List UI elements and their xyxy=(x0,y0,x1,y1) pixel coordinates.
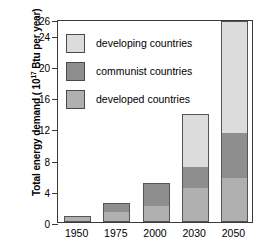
y-axis-tick-label: 16 xyxy=(39,94,50,105)
y-axis-tick xyxy=(52,68,58,69)
y-axis-tick xyxy=(52,21,58,22)
legend-label: developing countries xyxy=(96,37,192,49)
y-axis-tick xyxy=(52,162,58,163)
y-axis-tick-label: 4 xyxy=(44,187,50,198)
y-axis-title-exponent: 17 xyxy=(30,71,37,78)
energy-demand-bar-chart: Total energy demand ( 1017 Btu per year)… xyxy=(0,0,269,252)
chart-legend: developing countriescommunist countriesd… xyxy=(66,30,192,114)
bar-segment-developing xyxy=(182,114,209,166)
bar-segment-developed xyxy=(64,216,91,222)
legend-item-developing: developing countries xyxy=(66,30,192,56)
y-axis-tick xyxy=(52,37,58,38)
bar-segment-communist xyxy=(143,183,170,206)
y-axis-tick-label: 0 xyxy=(44,219,50,230)
y-axis-tick xyxy=(52,193,58,194)
bar-segment-communist xyxy=(221,133,248,178)
y-axis-tick-label: 24 xyxy=(39,31,50,42)
legend-swatch-icon xyxy=(66,90,85,109)
bar-2050 xyxy=(221,21,248,222)
legend-swatch-icon xyxy=(66,34,85,53)
x-axis-tick-label-2050: 2050 xyxy=(209,227,257,239)
bar-segment-developed xyxy=(103,212,130,222)
bar-2000 xyxy=(143,183,170,222)
bar-1950 xyxy=(64,216,91,222)
legend-item-developed: developed countries xyxy=(66,86,192,112)
y-axis-tick-label: 12 xyxy=(39,125,50,136)
y-axis-tick xyxy=(52,130,58,131)
y-axis-tick-label: 26 xyxy=(39,16,50,27)
legend-label: communist countries xyxy=(96,65,192,77)
bar-segment-developed xyxy=(221,178,248,222)
legend-item-communist: communist countries xyxy=(66,58,192,84)
bar-segment-developing xyxy=(221,21,248,133)
y-axis-tick-label: 8 xyxy=(44,156,50,167)
y-axis-tick xyxy=(52,99,58,100)
bar-segment-developed xyxy=(143,206,170,222)
bar-1975 xyxy=(103,203,130,223)
legend-swatch-icon xyxy=(66,62,85,81)
legend-label: developed countries xyxy=(96,93,190,105)
bar-segment-communist xyxy=(103,203,130,212)
bar-segment-communist xyxy=(182,167,209,188)
y-axis-tick-label: 20 xyxy=(39,62,50,73)
bar-2030 xyxy=(182,114,209,222)
bar-segment-developed xyxy=(182,188,209,222)
y-axis-tick xyxy=(52,224,58,225)
